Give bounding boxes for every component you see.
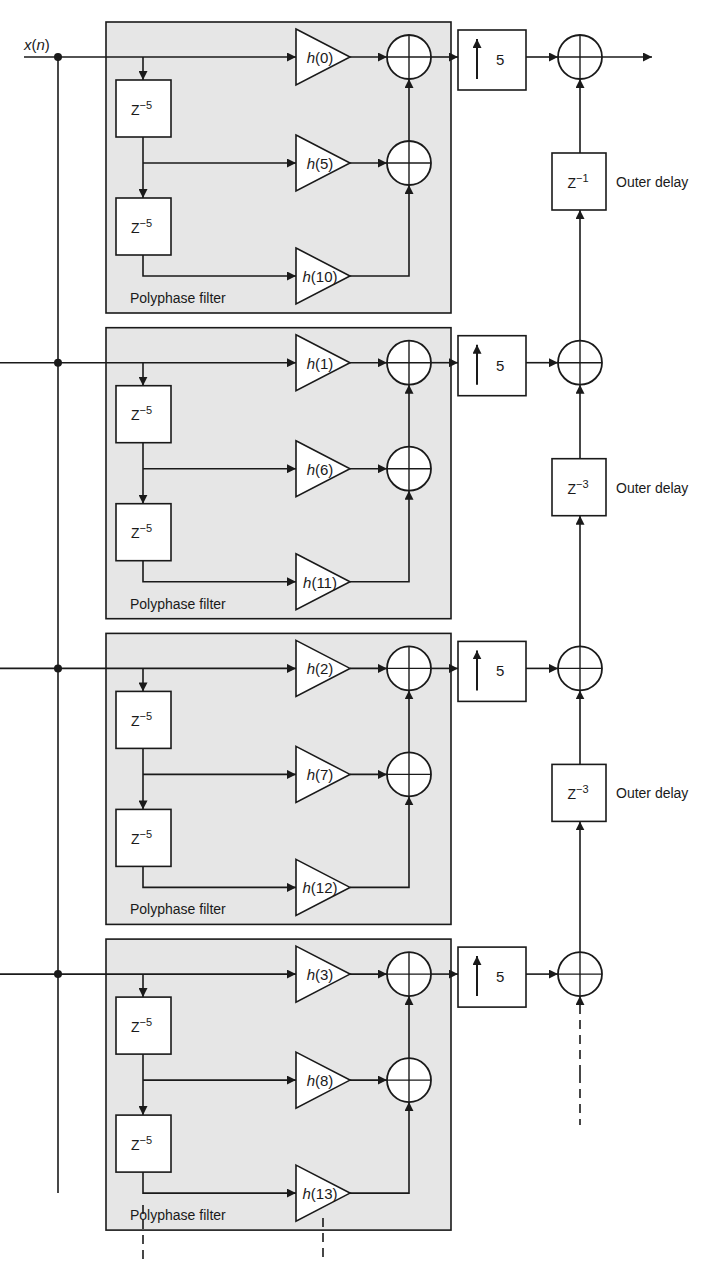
upsample-factor: 5: [496, 968, 504, 985]
polyphase-filter-label: Polyphase filter: [130, 901, 226, 917]
coefficient-label: h(2): [307, 660, 334, 677]
adder-top-2: [387, 646, 431, 690]
coefficient-label: h(1): [307, 355, 334, 372]
upsampler-box-3: [458, 947, 526, 1007]
coefficient-label: h(6): [307, 461, 334, 478]
junction-dot: [54, 53, 62, 61]
coefficient-label: h(10): [302, 268, 337, 285]
adder-top-1: [387, 341, 431, 385]
upsampler-box-1: [458, 336, 526, 396]
coefficient-label: h(5): [307, 155, 334, 172]
polyphase-filter-label: Polyphase filter: [130, 290, 226, 306]
adder-mid-2: [387, 752, 431, 796]
upsampler-box-0: [458, 30, 526, 90]
adder-mid-3: [387, 1058, 431, 1102]
upsample-factor: 5: [496, 357, 504, 374]
outer-adder-1: [558, 341, 602, 385]
coefficient-label: h(0): [307, 49, 334, 66]
adder-mid-0: [387, 141, 431, 185]
outer-delay-text: Outer delay: [616, 785, 688, 801]
polyphase-filter-label: Polyphase filter: [130, 1207, 226, 1223]
input-label-x-n: x(n): [23, 36, 50, 53]
upsample-factor: 5: [496, 662, 504, 679]
adder-top-0: [387, 35, 431, 79]
coefficient-label: h(13): [302, 1185, 337, 1202]
coefficient-label: h(12): [302, 879, 337, 896]
junction-dot: [54, 664, 62, 672]
coefficient-label: h(3): [307, 966, 334, 983]
polyphase-filter-label: Polyphase filter: [130, 596, 226, 612]
outer-delay-text: Outer delay: [616, 480, 688, 496]
outer-adder-0: [558, 35, 602, 79]
outer-adder-3: [558, 952, 602, 996]
junction-dot: [54, 970, 62, 978]
polyphase-diagram: Polyphase filterZ−5Z−5h(0)h(5)h(10)5Z−1O…: [0, 0, 726, 1280]
coefficient-label: h(8): [307, 1072, 334, 1089]
upsampler-box-2: [458, 641, 526, 701]
junction-dot: [54, 359, 62, 367]
outer-delay-text: Outer delay: [616, 174, 688, 190]
outer-adder-2: [558, 646, 602, 690]
upsample-factor: 5: [496, 51, 504, 68]
coefficient-label: h(7): [307, 766, 334, 783]
adder-mid-1: [387, 447, 431, 491]
adder-top-3: [387, 952, 431, 996]
coefficient-label: h(11): [303, 574, 337, 591]
